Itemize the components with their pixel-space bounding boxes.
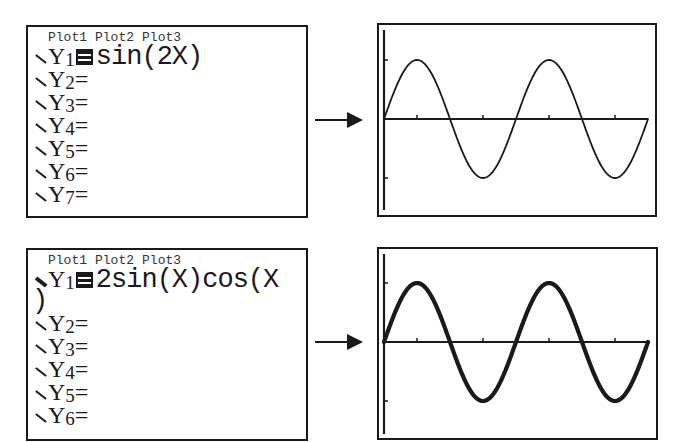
graph-bottom	[384, 254, 648, 434]
graph-top	[384, 30, 648, 210]
graphs-layer	[0, 0, 674, 442]
